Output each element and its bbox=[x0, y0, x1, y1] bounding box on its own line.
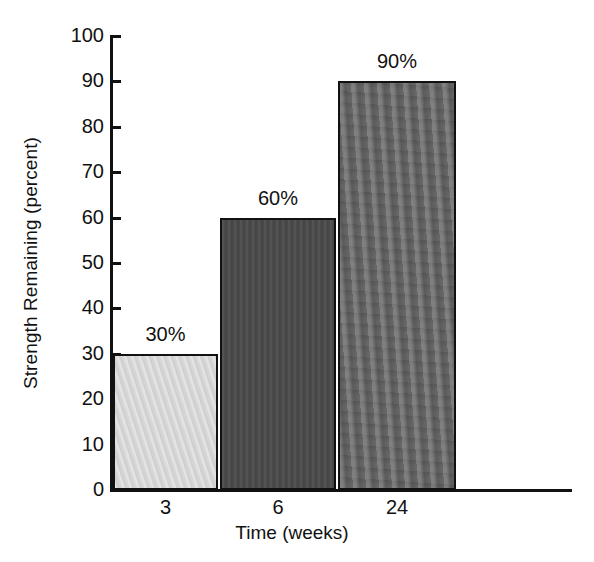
y-axis-tick-label: 70 bbox=[58, 161, 104, 181]
x-axis-tick-label: 3 bbox=[113, 496, 218, 518]
bar bbox=[113, 354, 218, 490]
y-axis-tick-label: 40 bbox=[58, 297, 104, 317]
bar bbox=[338, 81, 456, 490]
y-axis-title: Strength Remaining (percent) bbox=[14, 36, 48, 490]
bar bbox=[220, 218, 336, 490]
y-axis-tick-label: 20 bbox=[58, 388, 104, 408]
bar-value-label: 30% bbox=[113, 324, 218, 344]
y-axis-tick-label: 50 bbox=[58, 252, 104, 272]
y-axis-tick-label: 10 bbox=[58, 434, 104, 454]
plot-area bbox=[112, 36, 572, 490]
bar-texture bbox=[222, 220, 334, 488]
y-axis-tick-label: 80 bbox=[58, 116, 104, 136]
bar-value-label: 90% bbox=[338, 51, 456, 71]
bar-texture bbox=[340, 83, 454, 488]
y-axis-tick-label: 100 bbox=[58, 25, 104, 45]
x-axis-tick-label: 6 bbox=[220, 496, 336, 518]
x-axis-title: Time (weeks) bbox=[112, 522, 472, 544]
bar-chart: Strength Remaining (percent) 01020304050… bbox=[0, 0, 594, 562]
y-axis-tick-label: 90 bbox=[58, 70, 104, 90]
y-axis-tick-label: 60 bbox=[58, 207, 104, 227]
y-axis-tick-label: 0 bbox=[58, 479, 104, 499]
bar-texture bbox=[115, 356, 216, 488]
bar-value-label: 60% bbox=[220, 188, 336, 208]
x-axis-tick-label: 24 bbox=[338, 496, 456, 518]
y-axis-tick-label: 30 bbox=[58, 343, 104, 363]
